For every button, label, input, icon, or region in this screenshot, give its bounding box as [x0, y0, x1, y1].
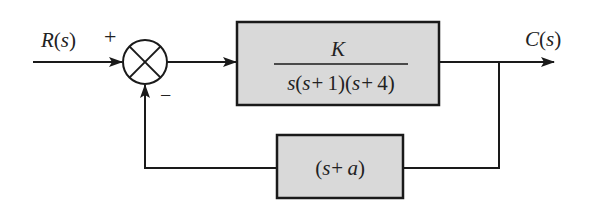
plus-sign: + [104, 24, 116, 49]
input-label: R(s) [40, 28, 76, 52]
block-diagram: R(s) + − K s(s+ 1)(s+ 4) C(s) (s+ a) [0, 0, 591, 222]
feedback-transfer-function: (s+ a) [315, 156, 365, 180]
forward-denominator: s(s+ 1)(s+ 4) [287, 71, 395, 95]
minus-sign: − [160, 84, 171, 106]
feedback-block: (s+ a) [277, 135, 403, 198]
output-label: C(s) [525, 27, 561, 51]
summing-junction [123, 40, 167, 84]
forward-numerator: K [330, 37, 346, 61]
forward-block: K s(s+ 1)(s+ 4) [237, 22, 439, 105]
